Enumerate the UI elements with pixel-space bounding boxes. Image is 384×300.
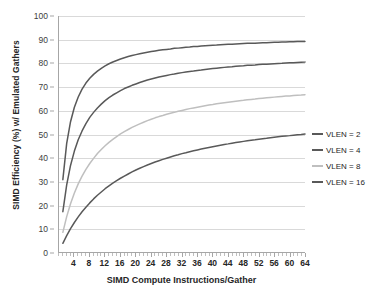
x-axis-tickmark	[112, 253, 113, 256]
x-axis-tick-label: 60	[285, 258, 294, 268]
x-axis-tick-label: 44	[223, 258, 232, 268]
x-axis-tickmark	[154, 253, 155, 256]
x-axis-tickmark	[263, 253, 264, 256]
y-axis-tickmark	[50, 16, 54, 17]
x-axis-tickmark	[301, 253, 302, 256]
y-axis-tick-label: 0	[43, 248, 48, 258]
legend-item[interactable]: VLEN = 4	[312, 142, 384, 158]
x-axis-tick-label: 28	[161, 258, 170, 268]
x-axis-tickmark	[293, 253, 294, 256]
x-axis-tick-label: 24	[146, 258, 155, 268]
x-axis-tickmark	[243, 253, 244, 257]
y-axis-tick-label: 60	[39, 106, 48, 116]
x-axis-tickmark	[131, 253, 132, 256]
x-axis-tickmark	[182, 253, 183, 257]
x-axis-tick-label: 56	[269, 258, 278, 268]
x-axis-tickmark	[185, 253, 186, 256]
x-axis-tickmark	[224, 253, 225, 256]
legend-label: VLEN = 2	[326, 130, 360, 139]
x-axis-tickmark	[274, 253, 275, 257]
x-axis-tickmark	[70, 253, 71, 256]
y-axis-tick-label: 80	[39, 58, 48, 68]
y-axis-tickmark	[50, 39, 54, 40]
plot-area	[58, 16, 305, 253]
x-axis-tickmark	[166, 253, 167, 257]
series-line	[63, 62, 305, 212]
y-axis-tickmark	[50, 87, 54, 88]
x-axis-tickmark	[85, 253, 86, 256]
legend-swatch	[312, 133, 323, 135]
x-axis-tickmark	[297, 253, 298, 256]
y-axis-ticks: 0102030405060708090100	[0, 16, 54, 253]
legend-item[interactable]: VLEN = 16	[312, 174, 384, 190]
series-layer	[59, 16, 305, 252]
x-axis-tickmark	[220, 253, 221, 256]
legend-item[interactable]: VLEN = 2	[312, 126, 384, 142]
legend-item[interactable]: VLEN = 8	[312, 158, 384, 174]
x-axis-tickmark	[127, 253, 128, 256]
x-axis-tickmark	[290, 253, 291, 257]
x-axis-tickmark	[158, 253, 159, 256]
x-axis-tick-label: 52	[254, 258, 263, 268]
x-axis-tick-label: 32	[177, 258, 186, 268]
x-axis-tick-label: 40	[208, 258, 217, 268]
x-axis-tickmark	[270, 253, 271, 256]
x-axis-tickmark	[305, 253, 306, 257]
x-axis-tickmark	[104, 253, 105, 257]
x-axis-tickmark	[266, 253, 267, 256]
x-axis-tickmark	[259, 253, 260, 257]
x-axis-tickmark	[201, 253, 202, 256]
x-axis-tick-label: 8	[87, 258, 92, 268]
x-axis-tickmark	[247, 253, 248, 256]
chart-container: SIMD Efficiency (%) w/ Emulated Gathers …	[0, 0, 384, 300]
legend-label: VLEN = 16	[326, 178, 365, 187]
x-axis-tickmark	[116, 253, 117, 256]
y-axis-tick-label: 30	[39, 177, 48, 187]
x-axis-tickmark	[236, 253, 237, 256]
x-axis-tick-label: 4	[71, 258, 76, 268]
x-axis-tick-label: 12	[100, 258, 109, 268]
y-axis-tickmark	[50, 63, 54, 64]
x-axis-tick-label: 64	[300, 258, 309, 268]
x-axis-tickmark	[189, 253, 190, 256]
x-axis-tickmark	[143, 253, 144, 256]
y-axis-tickmark	[50, 110, 54, 111]
x-axis-tickmark	[232, 253, 233, 256]
x-axis-tickmark	[278, 253, 279, 256]
x-axis-tickmark	[108, 253, 109, 256]
x-axis-tickmark	[209, 253, 210, 256]
x-axis-tickmark	[73, 253, 74, 257]
series-line	[63, 134, 305, 243]
x-axis-ticklabels: 481216202428323640444852566064	[58, 258, 305, 272]
x-axis-tick-label: 36	[192, 258, 201, 268]
y-axis-tickmark	[50, 205, 54, 206]
x-axis-tickmark	[286, 253, 287, 256]
series-line	[63, 95, 305, 233]
legend: VLEN = 2VLEN = 4VLEN = 8VLEN = 16	[312, 126, 384, 190]
x-axis-tickmark	[178, 253, 179, 256]
y-axis-tickmark	[50, 253, 54, 254]
x-axis-tickmark	[97, 253, 98, 256]
x-axis-tickmark	[205, 253, 206, 256]
legend-swatch	[312, 181, 323, 183]
x-axis-tickmark	[251, 253, 252, 256]
x-axis-tickmark	[66, 253, 67, 256]
legend-label: VLEN = 8	[326, 162, 360, 171]
x-axis-tickmark	[212, 253, 213, 257]
x-axis-tickmark	[120, 253, 121, 257]
y-axis-tick-label: 40	[39, 153, 48, 163]
y-axis-tickmark	[50, 158, 54, 159]
y-axis-tick-label: 10	[39, 224, 48, 234]
x-axis-tickmark	[139, 253, 140, 256]
x-axis-tickmark	[124, 253, 125, 256]
y-axis-tick-label: 100	[34, 11, 48, 21]
x-axis-tick-label: 20	[130, 258, 139, 268]
y-axis-tick-label: 70	[39, 82, 48, 92]
x-axis-tickmark	[151, 253, 152, 257]
legend-label: VLEN = 4	[326, 146, 360, 155]
x-axis-tickmark	[255, 253, 256, 256]
x-axis-tickmark	[100, 253, 101, 256]
x-axis-tickmark	[162, 253, 163, 256]
y-axis-tick-label: 90	[39, 35, 48, 45]
legend-swatch	[312, 165, 323, 167]
